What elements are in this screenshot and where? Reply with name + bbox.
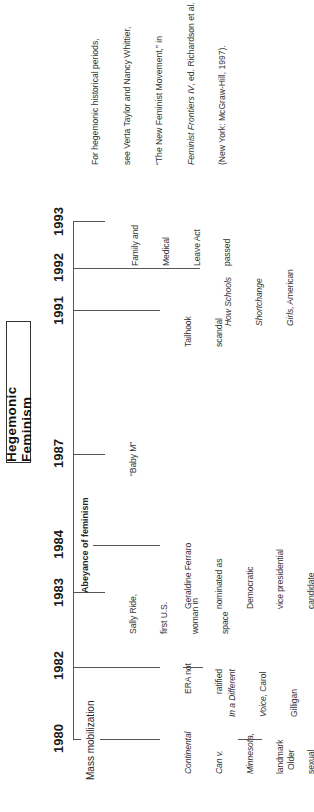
- event-line: Geraldine Ferraro: [183, 543, 193, 609]
- branch-1987-line: [73, 454, 105, 455]
- branch-1984-line: [93, 545, 160, 546]
- branch-1993-line: [73, 221, 105, 222]
- citation-line: For hegemonic historical periods,: [90, 2, 101, 165]
- year-label-1993: 1993: [52, 207, 66, 236]
- event-1987-baby-m: “Baby M”: [108, 442, 159, 476]
- year-label-1984: 1984: [52, 530, 66, 559]
- event-line: Continental: [183, 732, 193, 774]
- event-line: Can v.: [214, 750, 224, 774]
- event-line: Democratic: [245, 543, 255, 609]
- event-line: passed: [222, 225, 232, 266]
- event-line: Leave Act: [192, 225, 202, 266]
- period-label-abeyance: Abeyance of feminism: [80, 497, 91, 593]
- event-1982-in-a-different-voice: In a Different Voice, Carol Gilligan: [207, 669, 314, 717]
- year-label-1991: 1991: [52, 296, 66, 325]
- citation-line: “The New Feminist Movement,” in: [154, 2, 165, 165]
- branch-1991-line: [73, 310, 160, 311]
- event-line: Tailhook: [183, 316, 193, 347]
- event-line: Girls,: [285, 307, 295, 326]
- citation-line-rest: , ed. Richardson et al.: [186, 2, 196, 86]
- event-line: Family and: [130, 225, 140, 266]
- year-label-1992: 1992: [52, 253, 66, 282]
- event-line: Shortchange: [254, 278, 264, 326]
- event-line: In a Different: [227, 669, 237, 717]
- event-line: nominated as: [214, 543, 224, 609]
- event-1980-older-womens-league: Older Women's League founded: [266, 735, 314, 770]
- branch-1980-line: [100, 739, 160, 740]
- branch-1980-connector: [238, 739, 262, 740]
- year-label-1982: 1982: [52, 651, 66, 680]
- event-line: Medical: [161, 225, 171, 266]
- citation-book-title: Feminist Frontiers IV: [186, 86, 196, 165]
- event-line: Voice,: [258, 694, 268, 717]
- event-1984-geraldine-ferraro: Geraldine Ferraro nominated as Democrati…: [163, 543, 314, 609]
- citation-line: (New York: McGraw-Hill, 1997).: [217, 2, 228, 165]
- event-line: “Baby M”: [128, 442, 138, 476]
- event-line: Gilligan: [289, 669, 299, 717]
- event-line: candidate: [306, 543, 314, 609]
- year-label-1980: 1980: [52, 724, 66, 753]
- event-line: Older: [286, 735, 296, 770]
- timeline-axis: [73, 221, 74, 740]
- timeline-diagram: Hegemonic Feminism For hegemonic histori…: [0, 0, 314, 812]
- event-1993-fmla: Family and Medical Leave Act passed: [110, 225, 253, 266]
- event-line: Sally Ride,: [128, 594, 138, 634]
- branch-1980-tick: [73, 739, 81, 740]
- branch-1982-line: [73, 667, 160, 668]
- period-label-mass-mobilization: Mass mobilization: [85, 701, 96, 780]
- citation-note: For hegemonic historical periods, see Ve…: [69, 2, 249, 165]
- year-label-1983: 1983: [52, 578, 66, 607]
- citation-line: Feminist Frontiers IV, ed. Richardson et…: [186, 2, 197, 165]
- citation-line: see Verta Taylor and Nancy Whittier,: [122, 2, 133, 165]
- branch-1992-line: [73, 268, 200, 269]
- event-line: vice presidential: [275, 543, 285, 609]
- event-line: How Schools: [223, 277, 233, 326]
- diagram-title: Hegemonic Feminism: [6, 321, 31, 463]
- branch-1982-connector: [183, 667, 203, 668]
- event-1992-how-schools-shortchange-girls: How Schools Shortchange Girls, American …: [203, 269, 314, 326]
- year-label-1987: 1987: [52, 439, 66, 468]
